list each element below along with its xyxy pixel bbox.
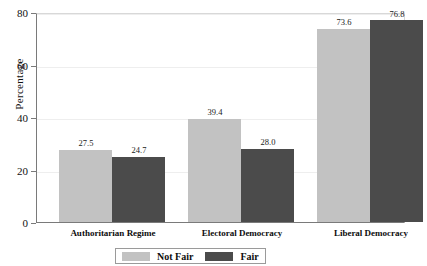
bar-group-authoritarian-regime: 27.5 24.7 (59, 14, 169, 222)
x-category-label-liberal-democracy: Liberal Democracy (291, 228, 427, 239)
y-tick-label-60: 60 (17, 61, 28, 71)
legend: Not Fair Fair (115, 248, 266, 264)
bar-not-fair-liberal-democracy[interactable] (317, 29, 370, 222)
y-tick-label-80: 80 (17, 8, 28, 18)
bar-value-not-fair-authoritarian-regime: 27.5 (56, 139, 116, 148)
bar-fair-authoritarian-regime[interactable] (112, 157, 165, 222)
bar-not-fair-electoral-democracy[interactable] (188, 119, 241, 222)
bar-group-electoral-democracy: 39.4 28.0 (188, 14, 298, 222)
legend-swatch-not-fair-icon (122, 252, 150, 261)
bar-value-fair-electoral-democracy: 28.0 (238, 138, 298, 147)
bar-value-fair-authoritarian-regime: 24.7 (109, 146, 169, 155)
y-tick-label-40: 40 (17, 113, 28, 123)
bar-value-fair-liberal-democracy: 76.8 (367, 10, 427, 19)
bar-fair-liberal-democracy[interactable] (370, 20, 423, 222)
y-tick-label-20: 20 (17, 166, 28, 176)
bar-not-fair-authoritarian-regime[interactable] (59, 150, 112, 222)
y-tick-mark-0 (31, 223, 36, 224)
plot-area: 27.5 24.7 39.4 28.0 73.6 76.8 (36, 13, 405, 223)
legend-label-fair: Fair (240, 251, 258, 262)
legend-label-not-fair: Not Fair (157, 251, 193, 262)
bar-value-not-fair-electoral-democracy: 39.4 (185, 108, 245, 117)
bar-group-liberal-democracy: 73.6 76.8 (317, 14, 427, 222)
legend-item-not-fair[interactable]: Not Fair (122, 251, 193, 262)
legend-item-fair[interactable]: Fair (205, 251, 258, 262)
bar-value-not-fair-liberal-democracy: 73.6 (314, 18, 374, 27)
y-tick-label-0: 0 (23, 218, 29, 228)
legend-swatch-fair-icon (205, 252, 233, 261)
bar-fair-electoral-democracy[interactable] (241, 149, 294, 223)
